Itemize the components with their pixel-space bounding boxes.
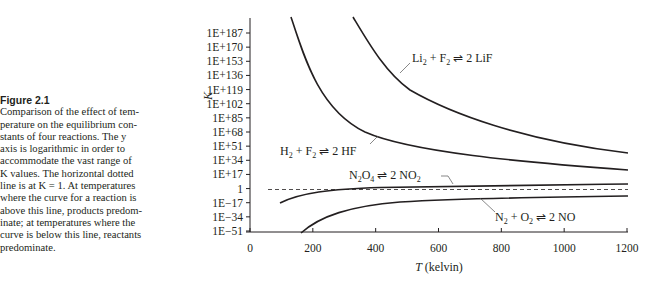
y-tick-label: 1E+170 <box>206 41 243 53</box>
leader-lif <box>400 63 410 73</box>
y-tick-label: 1 <box>237 183 243 195</box>
leader-hf <box>370 136 378 144</box>
x-tick-label: 800 <box>493 242 511 254</box>
leader-n2o4 <box>441 176 453 184</box>
leader-no <box>480 198 495 212</box>
label-n2o4: N2O4 ⇌ 2 NO2 <box>349 168 421 184</box>
y-ticks: 1E+1871E+1701E+1531E+1361E+1191E+1021E+8… <box>206 27 250 237</box>
label-lif: Li2 + F2 ⇌ 2 LiF <box>412 51 493 67</box>
curve-lif <box>353 17 628 153</box>
x-tick-label: 1000 <box>553 242 576 254</box>
label-hf: H2 + F2 ⇌ 2 HF <box>280 144 357 160</box>
y-tick-label: 1E−34 <box>212 211 243 223</box>
chart: K 1E+1871E+1701E+1531E+1361E+1191E+1021E… <box>0 0 661 282</box>
y-tick-label: 1E+136 <box>206 69 243 81</box>
label-no: N2 + O2 ⇌ 2 NO <box>495 210 576 226</box>
y-tick-label: 1E+187 <box>206 27 243 39</box>
y-tick-label: 1E+119 <box>207 84 243 96</box>
x-tick-label: 400 <box>367 242 385 254</box>
y-tick-label: 1E+68 <box>212 126 243 138</box>
x-tick-label: 600 <box>430 242 448 254</box>
x-axis-label: T (kelvin) <box>415 260 463 274</box>
y-tick-label: 1E+102 <box>206 98 243 110</box>
y-tick-label: 1E+34 <box>212 154 243 166</box>
y-tick-label: 1E+153 <box>206 55 243 67</box>
y-tick-label: 1E+85 <box>212 112 243 124</box>
y-tick-label: 1E−17 <box>212 197 243 209</box>
curve-no <box>301 196 628 233</box>
x-tick-label: 1200 <box>616 242 639 254</box>
x-tick-label: 0 <box>247 242 253 254</box>
y-tick-label: 1E+51 <box>212 140 243 152</box>
x-tick-label: 200 <box>304 242 322 254</box>
y-tick-label: 1E−51 <box>212 225 243 237</box>
y-tick-label: 1E+17 <box>212 168 243 180</box>
